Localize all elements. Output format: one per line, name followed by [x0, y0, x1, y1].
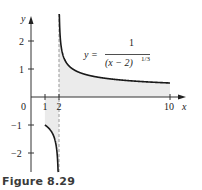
y-tick-label-2: 2	[19, 36, 24, 47]
x-tick-label-10: 10	[164, 101, 174, 112]
y-axis-arrow-icon	[29, 16, 34, 24]
y-tick-label-neg2: −2	[11, 148, 22, 159]
x-axis-arrow-icon	[178, 95, 186, 100]
x-axis-label: x	[181, 101, 187, 112]
x-tick-label-1: 1	[43, 101, 48, 112]
y-tick-label-1: 1	[19, 64, 24, 75]
x-tick-label-0: 0	[21, 101, 26, 112]
figure-caption: Figure 8.29	[2, 175, 75, 188]
equation-denominator: (x − 2)	[105, 57, 134, 69]
y-tick-label-neg1: −1	[11, 120, 22, 131]
y-axis-label: y	[20, 13, 26, 24]
equation-exponent: 1/3	[141, 55, 150, 63]
x-tick-label-2: 2	[57, 101, 62, 112]
equation-numerator: 1	[129, 37, 134, 48]
figure-plot: 0 1 2 10 x 2 1 −1 −2 y y = 1 (x − 2) 1/3	[0, 0, 202, 175]
equation-lhs: y =	[83, 49, 98, 60]
equation-label: y = 1 (x − 2) 1/3	[83, 37, 150, 69]
shaded-region-right	[59, 14, 170, 97]
